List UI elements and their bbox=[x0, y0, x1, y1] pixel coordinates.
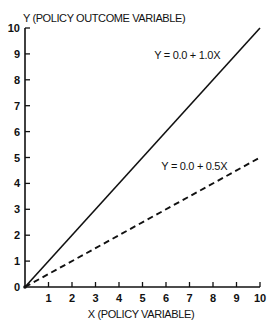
y-tick-label: 5 bbox=[14, 152, 20, 164]
x-tick-label: 6 bbox=[163, 292, 169, 304]
series-line-unit-slope bbox=[25, 28, 260, 287]
origin-point bbox=[23, 285, 27, 289]
y-tick-label: 2 bbox=[14, 229, 20, 241]
annotations: Y = 0.0 + 1.0XY = 0.0 + 0.5X bbox=[154, 49, 228, 172]
x-tick-label: 1 bbox=[45, 292, 51, 304]
x-tick-label: 7 bbox=[186, 292, 192, 304]
x-ticks: 12345678910 bbox=[45, 282, 266, 304]
series-line-half-slope bbox=[25, 158, 260, 288]
x-tick-label: 5 bbox=[139, 292, 145, 304]
y-tick-label: 6 bbox=[14, 126, 20, 138]
x-tick-label: 10 bbox=[254, 292, 266, 304]
y-tick-label: 9 bbox=[14, 48, 20, 60]
series-group bbox=[23, 28, 260, 289]
y-tick-label: 10 bbox=[8, 22, 20, 34]
x-axis-title: X (POLICY VARIABLE) bbox=[88, 308, 194, 320]
y-tick-label: 4 bbox=[14, 177, 21, 189]
series-annotation: Y = 0.0 + 0.5X bbox=[161, 160, 228, 172]
x-tick-label: 4 bbox=[116, 292, 123, 304]
y-axis-title: Y (POLICY OUTCOME VARIABLE) bbox=[23, 12, 185, 24]
y-tick-label: 7 bbox=[14, 100, 20, 112]
x-tick-label: 9 bbox=[233, 292, 239, 304]
y-tick-label: 0 bbox=[14, 281, 20, 293]
chart: Y (POLICY OUTCOME VARIABLE) X (POLICY VA… bbox=[0, 0, 275, 327]
series-annotation: Y = 0.0 + 1.0X bbox=[154, 49, 221, 61]
y-ticks: 012345678910 bbox=[8, 22, 30, 293]
x-tick-label: 8 bbox=[210, 292, 216, 304]
y-tick-label: 8 bbox=[14, 74, 20, 86]
x-tick-label: 3 bbox=[92, 292, 98, 304]
y-tick-label: 1 bbox=[14, 255, 20, 267]
x-tick-label: 2 bbox=[69, 292, 75, 304]
y-tick-label: 3 bbox=[14, 203, 20, 215]
